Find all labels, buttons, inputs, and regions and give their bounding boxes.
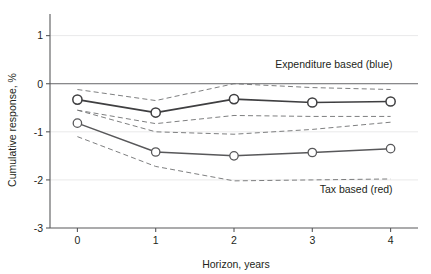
x-tick-label: 2 (231, 234, 237, 246)
axis-lines (50, 14, 418, 228)
x-tick-label: 0 (74, 234, 80, 246)
y-tick-label: -1 (34, 126, 43, 138)
y-axis-title: Cumulative response, % (6, 73, 18, 187)
cumulative-response-line-chart: 10-1-2-3 01234 Expenditure based (blue)T… (0, 0, 431, 274)
y-tick-label: -3 (34, 222, 43, 234)
series-annotation: Tax based (red) (320, 183, 393, 195)
x-tick-labels: 01234 (74, 234, 393, 246)
x-tick-label: 1 (153, 234, 159, 246)
series-lines (77, 99, 390, 156)
series-annotation: Expenditure based (blue) (275, 58, 392, 70)
y-tick-labels: 10-1-2-3 (34, 29, 44, 233)
chart-figure: 10-1-2-3 01234 Expenditure based (blue)T… (0, 0, 431, 274)
y-tick-label: 0 (37, 78, 43, 90)
y-tick-label: -2 (34, 174, 43, 186)
y-tick-label: 1 (37, 29, 43, 41)
x-tick-label: 3 (309, 234, 315, 246)
series-annotations: Expenditure based (blue)Tax based (red) (275, 58, 392, 195)
x-tick-label: 4 (388, 234, 394, 246)
x-axis-title: Horizon, years (202, 258, 270, 270)
